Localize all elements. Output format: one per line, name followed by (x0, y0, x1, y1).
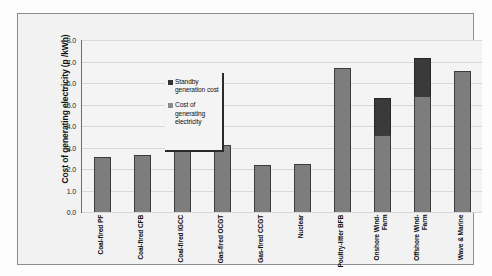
bar-segment-cost[interactable] (294, 164, 311, 212)
bar-segment-standby[interactable] (374, 98, 391, 135)
y-axis-tick-label: 6.0 (54, 80, 76, 87)
bar-stack[interactable] (174, 143, 191, 212)
y-axis-tick-label: 3.0 (54, 144, 76, 151)
bar-stack[interactable] (134, 155, 151, 212)
bar-segment-cost[interactable] (454, 71, 471, 212)
x-axis-tick-label: Wave & Marine (457, 215, 465, 276)
plot-area: Standby generation cost Cost of generati… (81, 40, 482, 213)
legend-label-cost: Cost of generating electricity (175, 101, 220, 126)
bar-stack[interactable] (374, 98, 391, 212)
x-axis-tick-label: Coal-fired CFB (137, 215, 145, 276)
chart-legend: Standby generation cost Cost of generati… (165, 73, 224, 152)
x-axis-tick-label: Onshore Wind- Farm (373, 215, 388, 276)
bar-segment-cost[interactable] (94, 157, 111, 212)
y-axis-tick-label: 7.0 (54, 58, 76, 65)
bar-slot (374, 40, 391, 212)
bar-slot (334, 40, 351, 212)
bar-series-container (82, 40, 482, 212)
y-axis-title-container: Cost of generating electricity (p /kWh) (35, 44, 55, 214)
x-axis-tick-label: Nuclear (297, 215, 305, 276)
y-axis-ticks: 8.07.06.05.04.03.02.01.00.0 (54, 40, 78, 212)
bar-slot (94, 40, 111, 212)
bar-stack[interactable] (414, 58, 431, 212)
x-axis-tick-label: Coal-fired IGCC (177, 215, 185, 276)
bar-slot (254, 40, 271, 212)
bar-stack[interactable] (334, 68, 351, 212)
bar-segment-cost[interactable] (414, 96, 431, 212)
x-axis-label-slot: Wave & Marine (430, 214, 492, 276)
gridline (82, 212, 482, 213)
bar-segment-cost[interactable] (174, 143, 191, 212)
bar-segment-cost[interactable] (134, 155, 151, 212)
bar-slot (134, 40, 151, 212)
bar-stack[interactable] (454, 71, 471, 212)
y-axis-tick-label: 2.0 (54, 166, 76, 173)
x-axis-tick-label: Offshore Wind- Farm (413, 215, 428, 276)
bar-slot (414, 40, 431, 212)
y-axis-tick-label: 1.0 (54, 187, 76, 194)
bar-stack[interactable] (94, 157, 111, 212)
bar-segment-cost[interactable] (214, 145, 231, 212)
legend-item-standby: Standby generation cost (168, 78, 220, 94)
bar-segment-cost[interactable] (374, 135, 391, 212)
legend-label-standby: Standby generation cost (175, 78, 220, 94)
legend-swatch-icon (168, 80, 173, 85)
bar-segment-cost[interactable] (334, 68, 351, 212)
x-axis-tick-label: Coal-fired PF (97, 215, 105, 276)
bar-segment-standby[interactable] (414, 58, 431, 96)
x-axis-tick-label: Poultry-litter BFB (337, 215, 345, 276)
legend-item-cost: Cost of generating electricity (168, 101, 220, 126)
bar-segment-cost[interactable] (254, 165, 271, 212)
bar-stack[interactable] (294, 164, 311, 212)
y-axis-tick-label: 8.0 (54, 37, 76, 44)
bar-slot (294, 40, 311, 212)
y-axis-tick-label: 5.0 (54, 101, 76, 108)
y-axis-tick-label: 4.0 (54, 123, 76, 130)
bar-stack[interactable] (254, 165, 271, 212)
legend-swatch-icon (168, 103, 173, 108)
bar-stack[interactable] (214, 145, 231, 212)
x-axis-tick-label: Gas-fired OCGT (217, 215, 225, 276)
x-axis-tick-label: Gas-fired CCGT (257, 215, 265, 276)
bar-slot (454, 40, 471, 212)
chart-frame: Cost of generating electricity (p /kWh) … (17, 13, 474, 265)
x-axis-labels: Coal-fired PFCoal-fired CFBCoal-fired IG… (81, 214, 481, 276)
chart-figure: Cost of generating electricity (p /kWh) … (0, 0, 492, 276)
